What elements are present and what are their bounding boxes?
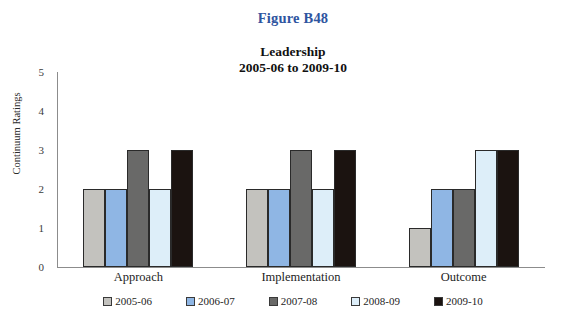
bar-approach-2009-10	[171, 150, 193, 267]
bar-outcome-2008-09	[475, 150, 497, 267]
x-axis-category-labels: ApproachImplementationOutcome	[57, 270, 545, 290]
legend-label-2009-10: 2009-10	[446, 295, 483, 307]
bar-implementation-2009-10	[334, 150, 356, 267]
bar-approach-2006-07	[105, 189, 127, 267]
bar-approach-2007-08	[127, 150, 149, 267]
bar-outcome-2006-07	[431, 189, 453, 267]
legend-item-2007-08[interactable]: 2007-08	[269, 295, 318, 307]
bar-approach-2005-06	[83, 189, 105, 267]
bar-implementation-2006-07	[268, 189, 290, 267]
x-axis-label-implementation: Implementation	[261, 270, 340, 285]
bar-implementation-2008-09	[312, 189, 334, 267]
legend-label-2006-07: 2006-07	[198, 295, 235, 307]
x-axis-label-approach: Approach	[114, 270, 163, 285]
legend-item-2009-10[interactable]: 2009-10	[434, 295, 483, 307]
legend-swatch-2005-06	[103, 297, 112, 306]
chart-title-line-1: Leadership	[0, 44, 586, 60]
bar-implementation-2005-06	[246, 189, 268, 267]
y-axis-tick-0: 0	[39, 261, 45, 273]
legend-item-2008-09[interactable]: 2008-09	[351, 295, 400, 307]
plot-area	[57, 72, 545, 267]
x-axis-line	[57, 267, 545, 268]
legend-label-2005-06: 2005-06	[115, 295, 152, 307]
x-axis-label-outcome: Outcome	[441, 270, 487, 285]
legend-swatch-2007-08	[269, 297, 278, 306]
y-axis-tick-1: 1	[39, 222, 45, 234]
figure-caption: Figure B48	[0, 10, 586, 27]
bar-approach-2008-09	[149, 189, 171, 267]
y-axis-tick-labels: 543210	[0, 72, 52, 267]
bars-layer	[57, 72, 545, 267]
legend-item-2005-06[interactable]: 2005-06	[103, 295, 152, 307]
bar-outcome-2005-06	[409, 228, 431, 267]
y-axis-tick-2: 2	[39, 183, 45, 195]
legend-swatch-2008-09	[351, 297, 360, 306]
y-axis-tick-4: 4	[39, 105, 45, 117]
legend-label-2007-08: 2007-08	[281, 295, 318, 307]
bar-implementation-2007-08	[290, 150, 312, 267]
bar-outcome-2009-10	[497, 150, 519, 267]
legend-swatch-2009-10	[434, 297, 443, 306]
legend-swatch-2006-07	[186, 297, 195, 306]
legend-label-2008-09: 2008-09	[363, 295, 400, 307]
y-axis-tick-3: 3	[39, 144, 45, 156]
y-axis-tick-5: 5	[39, 66, 45, 78]
chart-legend: 2005-062006-072007-082008-092009-10	[0, 295, 586, 307]
legend-item-2006-07[interactable]: 2006-07	[186, 295, 235, 307]
bar-outcome-2007-08	[453, 189, 475, 267]
